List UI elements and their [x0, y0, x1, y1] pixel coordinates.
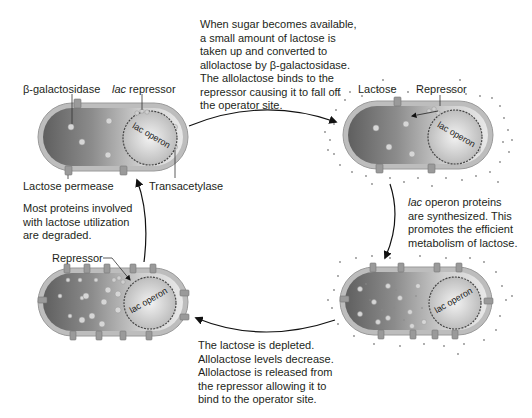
label-lac-repressor: lac repressor — [112, 83, 176, 96]
caption-line: Most proteins involved — [23, 202, 132, 216]
arrow-to-uninduced — [137, 180, 146, 262]
caption-line: the repressor allowing it to — [198, 380, 334, 394]
caption-line: bind to the operator site. — [198, 393, 334, 407]
caption-line: The allolactose binds to the — [200, 72, 357, 86]
caption-line: lac operon proteins — [408, 196, 517, 210]
caption-line: are degraded. — [23, 229, 132, 243]
caption-line: taken up and converted to — [200, 45, 357, 59]
caption-line: repressor causing it to fall off — [200, 86, 357, 100]
caption-depletion: The lactose is depleted. Allolactose lev… — [198, 339, 334, 407]
label-beta-galactosidase: β-galactosidase — [23, 83, 100, 96]
caption-line: with lactose utilization — [23, 216, 132, 230]
caption-line: Allolactose levels decrease. — [198, 353, 334, 367]
caption-line: allolactose by β-galactosidase. — [200, 59, 357, 73]
arrow-to-repressed — [196, 318, 335, 332]
caption-line: When sugar becomes available, — [200, 18, 357, 32]
caption-line: Allolactose is released from — [198, 366, 334, 380]
caption-induction: When sugar becomes available, a small am… — [200, 18, 357, 113]
label-repressor-bottom-left: Repressor — [52, 252, 103, 265]
caption-line: the operator site. — [200, 99, 357, 113]
label-lactose: Lactose — [358, 83, 397, 96]
label-transacetylase: Transacetylase — [149, 180, 223, 193]
cell-repressed: lac operon — [38, 258, 189, 340]
caption-line: a small amount of lactose is — [200, 32, 357, 46]
arrow-to-induced — [385, 184, 395, 258]
label-repressor-top-right: Repressor — [416, 83, 467, 96]
label-lac-italic: lac — [112, 83, 126, 95]
caption-synthesis: lac operon proteins are synthesized. Thi… — [408, 196, 517, 250]
caption-line: are synthesized. This — [408, 210, 517, 224]
caption-line: The lactose is depleted. — [198, 339, 334, 353]
caption-line: metabolism of lactose. — [408, 237, 517, 251]
label-repressor-text: repressor — [126, 83, 176, 95]
caption-lac-italic: lac — [408, 196, 422, 208]
cell-uninduced: lac operon — [38, 94, 188, 179]
label-lactose-permease: Lactose permease — [23, 180, 114, 193]
cell-induced: lac operon — [327, 255, 513, 355]
caption-line: promotes the efficient — [408, 223, 517, 237]
caption-text: operon proteins — [422, 196, 502, 208]
caption-degradation: Most proteins involved with lactose util… — [23, 202, 132, 243]
